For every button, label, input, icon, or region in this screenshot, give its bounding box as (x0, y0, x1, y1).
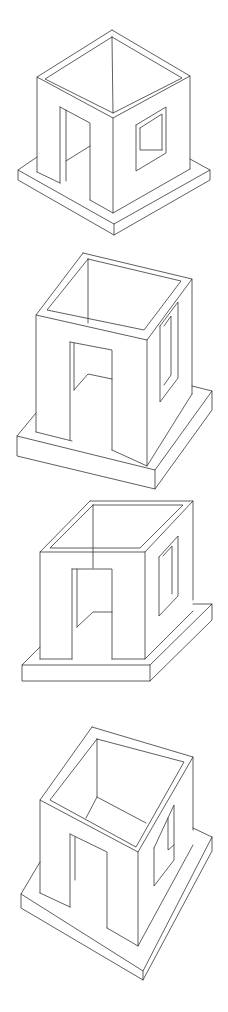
edge-line (70, 342, 112, 450)
edge-line (21, 837, 212, 980)
edge-line (107, 845, 193, 946)
edge-line (18, 157, 210, 224)
edge-line (40, 893, 70, 907)
edge-line (36, 432, 72, 441)
edge-line (50, 739, 184, 847)
edge-line (66, 146, 90, 161)
edge-line (40, 727, 193, 852)
edge-line (17, 391, 212, 489)
edge-line (60, 107, 90, 200)
edge-line (21, 828, 212, 971)
edge-line (37, 30, 190, 118)
edge-line (112, 394, 192, 466)
edge-line (22, 604, 212, 665)
edge-line (36, 253, 192, 340)
edge-line (17, 386, 212, 470)
edge-line (90, 169, 190, 213)
edge-line (163, 546, 172, 594)
edge-line (160, 302, 178, 402)
edge-line (50, 505, 183, 548)
figure-4-planometric-building (21, 727, 212, 980)
edge-line (37, 172, 60, 183)
figure-3-cabinet-building (22, 501, 212, 681)
edge-line (112, 37, 113, 113)
edge-line (45, 37, 182, 113)
edge-line (77, 612, 112, 627)
edge-line (74, 374, 112, 390)
edge-line (70, 834, 107, 928)
edge-line (159, 536, 178, 616)
edge-line (140, 114, 162, 150)
edge-line (140, 128, 162, 150)
edge-line (154, 805, 174, 886)
drawing-canvas (0, 0, 228, 1012)
figure-2-oblique-building (17, 253, 212, 489)
edge-line (168, 818, 174, 850)
edge-line (97, 797, 146, 823)
edge-line (72, 569, 112, 659)
figure-1-isometric-building (18, 30, 210, 235)
edge-line (22, 604, 212, 681)
edge-line (47, 259, 181, 330)
edge-line (136, 107, 166, 171)
edge-line (164, 316, 171, 385)
